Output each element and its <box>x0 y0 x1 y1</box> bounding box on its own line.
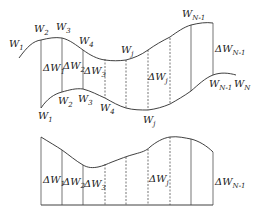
bottom-delta-label-dwn1: ΔWN-1 <box>214 176 245 190</box>
profile-curve <box>41 137 213 168</box>
upper-label-wj: Wj <box>121 44 134 58</box>
delta-label-dw3: ΔW3 <box>83 65 107 79</box>
upper-label-wn1: WN-1 <box>182 8 205 22</box>
upper-label-w2: W2 <box>34 23 49 37</box>
bottom-delta-label-dw1: ΔW1 <box>42 174 65 188</box>
lower-label-w4: W4 <box>100 102 115 116</box>
upper-label-w4: W4 <box>79 35 94 49</box>
delta-label-dw2: ΔW2 <box>62 60 86 74</box>
strip-diagram: W1 W2 W3 W4 Wj WN-1 W1 W2 W3 W4 Wj WN-1 … <box>0 0 256 215</box>
delta-label-dwj: ΔWj <box>147 71 169 85</box>
lower-label-w3: W3 <box>78 93 93 107</box>
delta-label-dwn1: ΔWN-1 <box>214 43 245 57</box>
bottom-diagram: ΔW1 ΔW2 ΔW3 ΔWj ΔWN-1 <box>41 137 245 205</box>
lower-label-wn: WN <box>234 78 251 92</box>
upper-label-w3: W3 <box>56 21 71 35</box>
delta-label-dw1: ΔW1 <box>42 62 65 76</box>
lower-label-wj: Wj <box>143 114 156 128</box>
top-diagram: W1 W2 W3 W4 Wj WN-1 W1 W2 W3 W4 Wj WN-1 … <box>9 8 251 128</box>
lower-label-w1: W1 <box>38 110 53 124</box>
lower-label-wn1: WN-1 <box>209 78 232 92</box>
upper-label-w1: W1 <box>9 38 24 52</box>
bottom-delta-label-dw2: ΔW2 <box>62 176 86 190</box>
lower-label-w2: W2 <box>58 95 73 109</box>
bottom-delta-label-dwj: ΔWj <box>148 173 170 187</box>
bottom-delta-label-dw3: ΔW3 <box>83 178 107 192</box>
